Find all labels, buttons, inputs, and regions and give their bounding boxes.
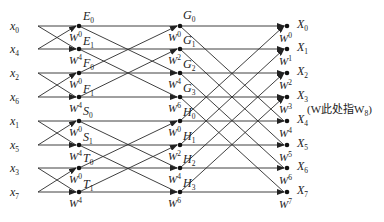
input-label: x0	[9, 19, 19, 35]
stage1-node	[77, 166, 82, 171]
stage1-twiddle: W0	[69, 172, 82, 185]
output-twiddle: W2	[279, 78, 292, 91]
output-label: X7	[296, 183, 308, 199]
stage1-node	[77, 190, 82, 195]
output-node	[285, 190, 290, 195]
stage1-label: F0	[82, 56, 94, 72]
stage1-label: S1	[83, 130, 93, 146]
stage1-label: T0	[83, 151, 94, 167]
input-label: x2	[9, 66, 19, 82]
output-label: X2	[296, 64, 308, 80]
output-node	[285, 119, 290, 124]
stage1-twiddle: W0	[69, 30, 82, 43]
input-label: x4	[9, 42, 19, 58]
stage2-twiddle: W6	[168, 196, 181, 209]
input-label: x3	[9, 161, 19, 177]
output-twiddle: W6	[279, 173, 292, 186]
stage2-node	[178, 24, 183, 29]
input-label: x1	[9, 114, 19, 130]
stage2-node	[178, 47, 183, 52]
stage1-twiddle: W4	[69, 149, 82, 162]
stage1-twiddle: W4	[69, 53, 82, 66]
stage1-node	[77, 71, 82, 76]
stage1-label: F1	[82, 82, 94, 98]
output-twiddle: W1	[279, 54, 292, 67]
stage1-node	[77, 119, 82, 124]
twiddle-annotation: (W此处指W8)	[307, 102, 372, 118]
stage2-twiddle: W0	[168, 30, 181, 43]
stage1-twiddle: W4	[69, 196, 82, 209]
stage2-node	[178, 166, 183, 171]
stage1-label: S0	[83, 104, 93, 120]
stage1-twiddle: W0	[69, 125, 82, 138]
stage2-label: H1	[182, 129, 196, 145]
node-labels: x0x4x2x6x1x5x3x7E0W0E1W4F0W0F1W4S0W0S1W4…	[9, 8, 372, 210]
stage2-node	[178, 143, 183, 148]
stage2-twiddle: W4	[168, 77, 181, 90]
output-twiddle: W4	[279, 126, 292, 139]
stage2-node	[178, 190, 183, 195]
stage1-node	[77, 95, 82, 100]
stage2-twiddle: W6	[168, 101, 181, 114]
output-twiddle: W3	[279, 102, 292, 115]
output-node	[285, 71, 290, 76]
stage2-label: H2	[182, 152, 196, 168]
stage2-twiddle: W2	[168, 53, 181, 66]
input-label: x7	[9, 185, 19, 201]
stage2-label: G1	[183, 33, 196, 49]
output-node	[285, 95, 290, 100]
output-node	[285, 47, 290, 52]
stage2-twiddle: W4	[168, 172, 181, 185]
stage1-twiddle: W0	[69, 77, 82, 90]
output-twiddle: W5	[279, 150, 292, 163]
stage1-label: E1	[82, 34, 94, 50]
input-label: x5	[9, 138, 19, 154]
input-label: x6	[9, 90, 19, 106]
stage2-node	[178, 119, 183, 124]
stage2-label: H0	[182, 105, 196, 121]
stage2-twiddle: W2	[168, 149, 181, 162]
stage2-label: H3	[182, 176, 196, 192]
stage1-label: T1	[83, 177, 94, 193]
output-label: X1	[296, 40, 308, 56]
stage2-label: G2	[183, 57, 196, 73]
stage1-label: E0	[82, 9, 94, 25]
output-label: X3	[296, 88, 308, 104]
output-label: X0	[296, 17, 308, 33]
stage2-node	[178, 71, 183, 76]
stage1-node	[77, 47, 82, 52]
stage1-node	[77, 24, 82, 29]
fft-butterfly-diagram: x0x4x2x6x1x5x3x7E0W0E1W4F0W0F1W4S0W0S1W4…	[0, 0, 384, 222]
output-twiddle: W7	[279, 197, 292, 210]
output-twiddle: W0	[279, 31, 292, 44]
output-label: X5	[296, 136, 308, 152]
output-node	[285, 24, 290, 29]
stage2-label: G0	[183, 8, 196, 24]
stage2-twiddle: W0	[168, 125, 181, 138]
stage2-label: G3	[183, 81, 196, 97]
stage2-node	[178, 95, 183, 100]
output-label: X6	[296, 159, 308, 175]
output-node	[285, 166, 290, 171]
output-node	[285, 143, 290, 148]
stage1-node	[77, 143, 82, 148]
stage1-twiddle: W4	[69, 101, 82, 114]
